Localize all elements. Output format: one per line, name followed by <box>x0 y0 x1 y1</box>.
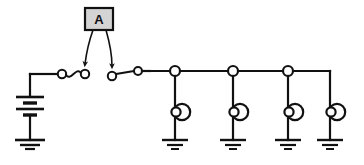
load-1-ground-icon <box>162 140 188 149</box>
load-2-inner-ring <box>229 107 238 116</box>
load-branch-2 <box>220 66 248 149</box>
switch-2-left-contact[interactable] <box>108 72 116 80</box>
annotation-arrows <box>85 30 112 66</box>
load-3-inner-ring <box>284 107 293 116</box>
bus-junction-node-3[interactable] <box>283 66 293 76</box>
load-3-ground-icon <box>275 140 301 149</box>
load-branch-3 <box>275 66 303 149</box>
annotation-label-box[interactable]: A <box>85 8 113 30</box>
bus-junction-node-1[interactable] <box>170 66 180 76</box>
battery-plates <box>16 97 44 115</box>
load-4-ground-icon <box>317 140 343 149</box>
load-1-inner-ring <box>171 107 180 116</box>
battery-ground-icon <box>15 140 45 149</box>
switch-1-right-contact[interactable] <box>81 70 89 78</box>
switch-1-blade[interactable] <box>66 71 81 77</box>
load-branch-1 <box>162 66 190 149</box>
switch-2-blade[interactable] <box>116 71 134 74</box>
annotation-arrow-to-switch-1 <box>85 30 93 64</box>
switch-2[interactable] <box>108 67 150 80</box>
load-2-ground-icon <box>220 140 246 149</box>
annotation-arrow-to-switch-2 <box>106 30 112 66</box>
circuit-schematic: A <box>0 0 364 165</box>
switch-1[interactable] <box>58 70 89 78</box>
annotation-box-label: A <box>94 12 104 27</box>
battery-source <box>15 74 58 149</box>
load-4-inner-ring <box>326 107 335 116</box>
switch-1-left-contact[interactable] <box>58 70 66 78</box>
load-branch-4 <box>317 71 345 149</box>
diagram-canvas: A <box>0 0 364 165</box>
bus-junction-node-2[interactable] <box>228 66 238 76</box>
switch-2-right-contact[interactable] <box>134 67 142 75</box>
